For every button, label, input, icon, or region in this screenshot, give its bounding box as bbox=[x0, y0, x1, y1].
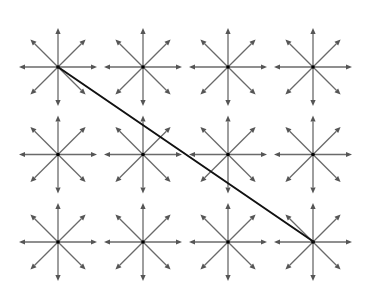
lattice-node bbox=[189, 28, 267, 106]
arrow-nw bbox=[205, 219, 228, 242]
arrow-nw bbox=[120, 219, 143, 242]
arrow-se bbox=[58, 155, 81, 178]
arrow-sw bbox=[290, 242, 313, 265]
lattice-node bbox=[104, 116, 182, 194]
arrow-sw bbox=[35, 155, 58, 178]
arrowhead-icon bbox=[176, 64, 182, 69]
arrowhead-icon bbox=[91, 64, 97, 69]
arrow-nw bbox=[120, 131, 143, 154]
lattice-node bbox=[19, 116, 97, 194]
lattice-node bbox=[274, 28, 352, 106]
arrowhead-icon bbox=[55, 116, 60, 122]
arrow-nw bbox=[35, 131, 58, 154]
node-point bbox=[141, 65, 145, 69]
node-point bbox=[226, 65, 230, 69]
arrow-ne bbox=[143, 131, 166, 154]
arrow-se bbox=[313, 242, 336, 265]
arrowhead-icon bbox=[140, 28, 145, 34]
arrowhead-icon bbox=[225, 188, 230, 194]
arrow-nw bbox=[35, 219, 58, 242]
arrowhead-icon bbox=[140, 100, 145, 106]
arrowhead-icon bbox=[91, 239, 97, 244]
arrowhead-icon bbox=[104, 239, 110, 244]
arrow-ne bbox=[228, 44, 251, 67]
lattice-node bbox=[19, 203, 97, 281]
arrowhead-icon bbox=[19, 152, 25, 157]
arrowhead-icon bbox=[176, 239, 182, 244]
arrow-sw bbox=[120, 67, 143, 90]
arrowhead-icon bbox=[346, 152, 352, 157]
arrow-se bbox=[143, 155, 166, 178]
arrowhead-icon bbox=[140, 188, 145, 194]
arrow-sw bbox=[205, 242, 228, 265]
arrow-se bbox=[143, 67, 166, 90]
node-point bbox=[56, 240, 60, 244]
arrowhead-icon bbox=[225, 100, 230, 106]
arrowhead-icon bbox=[55, 28, 60, 34]
arrowhead-icon bbox=[104, 152, 110, 157]
node-point bbox=[311, 65, 315, 69]
arrow-nw bbox=[120, 44, 143, 67]
arrowhead-icon bbox=[91, 152, 97, 157]
arrowhead-icon bbox=[274, 239, 280, 244]
arrow-nw bbox=[205, 44, 228, 67]
lattice-node bbox=[104, 28, 182, 106]
arrow-se bbox=[58, 242, 81, 265]
node-point bbox=[141, 240, 145, 244]
node-point bbox=[56, 153, 60, 157]
arrow-ne bbox=[143, 44, 166, 67]
arrow-se bbox=[143, 242, 166, 265]
arrowhead-icon bbox=[225, 275, 230, 281]
arrow-ne bbox=[58, 131, 81, 154]
arrowhead-icon bbox=[225, 28, 230, 34]
lattice-node bbox=[104, 203, 182, 281]
arrowhead-icon bbox=[55, 188, 60, 194]
arrow-sw bbox=[120, 155, 143, 178]
arrow-ne bbox=[313, 131, 336, 154]
arrowhead-icon bbox=[310, 116, 315, 122]
arrow-ne bbox=[313, 219, 336, 242]
arrowhead-icon bbox=[19, 239, 25, 244]
arrow-sw bbox=[290, 155, 313, 178]
arrowhead-icon bbox=[274, 64, 280, 69]
arrow-nw bbox=[35, 44, 58, 67]
arrowhead-icon bbox=[225, 203, 230, 209]
arrowhead-icon bbox=[189, 64, 195, 69]
diagram-canvas bbox=[0, 0, 371, 303]
arrowhead-icon bbox=[310, 188, 315, 194]
arrow-ne bbox=[58, 219, 81, 242]
arrowhead-icon bbox=[189, 239, 195, 244]
arrow-sw bbox=[205, 67, 228, 90]
arrow-se bbox=[228, 242, 251, 265]
arrow-se bbox=[313, 155, 336, 178]
arrowhead-icon bbox=[261, 64, 267, 69]
arrow-ne bbox=[143, 219, 166, 242]
node-point bbox=[226, 153, 230, 157]
arrowhead-icon bbox=[140, 116, 145, 122]
arrow-sw bbox=[290, 67, 313, 90]
arrow-sw bbox=[35, 67, 58, 90]
arrowhead-icon bbox=[55, 275, 60, 281]
arrow-ne bbox=[228, 219, 251, 242]
arrow-se bbox=[228, 67, 251, 90]
arrowhead-icon bbox=[261, 239, 267, 244]
arrowhead-icon bbox=[310, 28, 315, 34]
arrow-ne bbox=[58, 44, 81, 67]
arrow-sw bbox=[120, 242, 143, 265]
lattice-node bbox=[274, 116, 352, 194]
arrowhead-icon bbox=[104, 64, 110, 69]
lattice-node bbox=[189, 116, 267, 194]
arrow-se bbox=[228, 155, 251, 178]
arrow-nw bbox=[290, 44, 313, 67]
lattice-node bbox=[189, 203, 267, 281]
node-point bbox=[311, 153, 315, 157]
arrowhead-icon bbox=[19, 64, 25, 69]
arrowhead-icon bbox=[261, 152, 267, 157]
arrowhead-icon bbox=[346, 239, 352, 244]
arrowhead-icon bbox=[274, 152, 280, 157]
arrowhead-icon bbox=[310, 100, 315, 106]
arrowhead-icon bbox=[225, 116, 230, 122]
arrowhead-icon bbox=[346, 64, 352, 69]
arrowhead-icon bbox=[310, 275, 315, 281]
arrowhead-icon bbox=[176, 152, 182, 157]
